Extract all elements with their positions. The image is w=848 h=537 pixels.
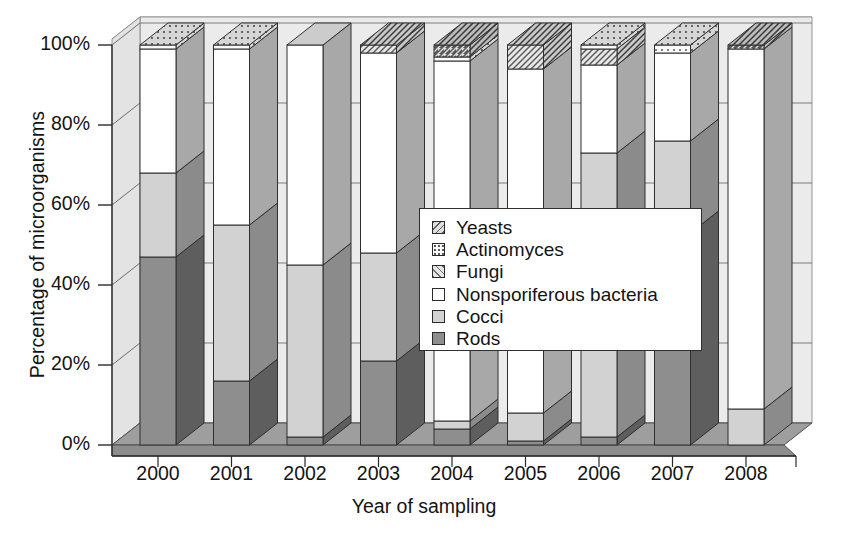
- bar-segment-2003-fungi: [361, 45, 397, 53]
- bar-segment-2000-actino: [140, 45, 176, 49]
- bar-side-2008-nonspor: [764, 27, 792, 409]
- bar-side-2002-cocci: [323, 243, 351, 437]
- y-tick-label-60: 60%: [22, 192, 90, 215]
- plot-floor-front: [112, 445, 796, 456]
- legend-swatch-yeasts: [432, 221, 445, 234]
- x-tick-label-2007: 2007: [637, 462, 709, 485]
- legend-item-yeasts[interactable]: Yeasts: [432, 216, 701, 238]
- bar-side-2002-nonspor: [323, 23, 351, 265]
- bar-segment-2003-cocci: [361, 253, 397, 361]
- bar-segment-2006-actino: [581, 45, 617, 49]
- legend-item-cocci[interactable]: Cocci: [432, 305, 701, 327]
- bar-segment-2006-fungi: [581, 49, 617, 65]
- bar-segment-2002-rods: [287, 437, 323, 445]
- bar-segment-2008-cocci: [728, 409, 764, 445]
- x-tick-label-2005: 2005: [490, 462, 562, 485]
- legend-swatch-rods: [432, 332, 445, 345]
- bar-segment-2008-nonspor: [728, 49, 764, 409]
- y-tick-label-80: 80%: [22, 112, 90, 135]
- x-tick-label-2001: 2001: [196, 462, 268, 485]
- legend-swatch-fungi: [432, 265, 445, 278]
- bar-segment-2001-cocci: [214, 225, 250, 381]
- bar-segment-2008-yeasts: [728, 45, 764, 49]
- bar-segment-2004-rods: [434, 429, 470, 445]
- chart-legend: YeastsActinomycesFungiNonsporiferous bac…: [419, 208, 702, 351]
- legend-swatch-actinomyces: [432, 243, 445, 256]
- bar-segment-2006-rods: [581, 437, 617, 445]
- bar-segment-2005-rods: [508, 441, 544, 445]
- bar-side-2000-rods: [176, 235, 204, 445]
- bar-segment-2001-nonspor: [214, 49, 250, 225]
- legend-label: Rods: [456, 329, 500, 348]
- bar-segment-2001-actino: [214, 45, 250, 49]
- bar-segment-2004-yeasts: [434, 45, 470, 57]
- bar-segment-2004-actino: [434, 57, 470, 61]
- legend-item-actinomyces[interactable]: Actinomyces: [432, 238, 701, 260]
- bar-segment-2003-rods: [361, 361, 397, 445]
- legend-swatch-nonsporiferous-bacteria: [432, 288, 445, 301]
- legend-label: Yeasts: [456, 218, 512, 237]
- bar-segment-2007-nonspor: [655, 53, 691, 141]
- bar-segment-2000-nonspor: [140, 49, 176, 173]
- x-tick-label-2003: 2003: [343, 462, 415, 485]
- bar-segment-2001-rods: [214, 381, 250, 445]
- legend-label: Cocci: [456, 307, 504, 326]
- y-tick-label-20: 20%: [22, 352, 90, 375]
- bar-segment-2005-cocci: [508, 413, 544, 441]
- bar-segment-2004-cocci: [434, 421, 470, 429]
- legend-label: Fungi: [456, 262, 504, 281]
- x-tick-label-2006: 2006: [563, 462, 635, 485]
- bar-side-2001-cocci: [250, 203, 278, 381]
- legend-item-rods[interactable]: Rods: [432, 327, 701, 349]
- legend-item-fungi[interactable]: Fungi: [432, 261, 701, 283]
- legend-label: Actinomyces: [456, 240, 564, 259]
- x-axis-title: Year of sampling: [0, 495, 848, 518]
- y-tick-label-0: 0%: [22, 432, 90, 455]
- bar-segment-2007-actino: [655, 45, 691, 53]
- plot-left-wall: [112, 17, 140, 445]
- bar-side-2001-nonspor: [250, 27, 278, 225]
- chart-figure: Percentage of microorganisms 100%80%60%4…: [0, 0, 848, 537]
- bar-side-2000-nonspor: [176, 27, 204, 173]
- bar-segment-2005-fungi: [508, 45, 544, 69]
- legend-label: Nonsporiferous bacteria: [456, 285, 658, 304]
- y-tick-label-100: 100%: [22, 32, 90, 55]
- bar-segment-2000-cocci: [140, 173, 176, 257]
- bar-segment-2003-nonspor: [361, 53, 397, 253]
- x-tick-label-2004: 2004: [416, 462, 488, 485]
- x-tick-label-2002: 2002: [269, 462, 341, 485]
- bar-segment-2006-nonspor: [581, 65, 617, 153]
- x-tick-label-2008: 2008: [710, 462, 782, 485]
- x-tick-label-2000: 2000: [122, 462, 194, 485]
- y-tick-label-40: 40%: [22, 272, 90, 295]
- bar-segment-2002-cocci: [287, 265, 323, 437]
- legend-item-nonsporiferous-bacteria[interactable]: Nonsporiferous bacteria: [432, 283, 701, 305]
- bar-segment-2002-nonspor: [287, 45, 323, 265]
- legend-swatch-cocci: [432, 310, 445, 323]
- bar-segment-2000-rods: [140, 257, 176, 445]
